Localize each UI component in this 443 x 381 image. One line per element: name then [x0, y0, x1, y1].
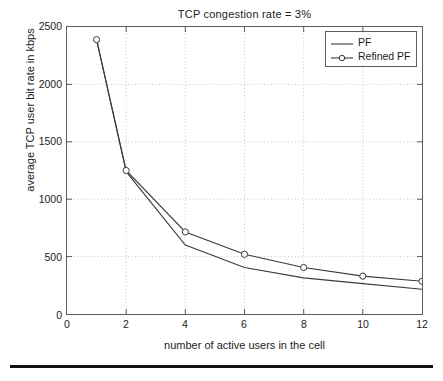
data-point-marker [301, 264, 307, 270]
x-tick-label-4: 4 [182, 319, 188, 330]
legend-entry-refined-pf: Refined PF [329, 49, 412, 63]
x-tick-label-0: 0 [64, 319, 70, 330]
data-point-marker [182, 229, 188, 235]
chart-title: TCP congestion rate = 3% [66, 8, 423, 20]
x-tick-label-12: 12 [416, 319, 428, 330]
data-point-marker [419, 278, 422, 284]
legend-entry-pf: PF [329, 35, 412, 49]
x-axis-label: number of active users in the cell [66, 339, 423, 351]
y-tick-label-0: 0 [56, 310, 62, 321]
legend-line-icon [329, 38, 355, 50]
x-tick-label-6: 6 [241, 319, 247, 330]
y-tick-label-1500: 1500 [39, 136, 62, 147]
data-point-marker [123, 167, 129, 173]
gridlines [67, 27, 422, 314]
series-line-refined-pf [97, 40, 422, 282]
figure-container: TCP congestion rate = 3% average TCP use… [0, 0, 443, 381]
plot-canvas [67, 27, 422, 314]
x-tick-label-2: 2 [123, 319, 129, 330]
y-axis-tick-labels: 2500 2000 1500 1000 500 0 [18, 26, 62, 315]
y-tick-label-500: 500 [44, 252, 62, 263]
legend-circle-marker-icon [329, 52, 355, 64]
x-axis-tick-labels: 0 2 4 6 8 10 12 [66, 319, 423, 335]
footer-divider [10, 365, 433, 368]
legend: PF Refined PF [325, 31, 417, 67]
series-markers-refined-pf [93, 37, 422, 285]
x-tick-label-10: 10 [357, 319, 369, 330]
data-point-marker [360, 273, 366, 279]
data-point-marker [241, 251, 247, 257]
x-tick-label-8: 8 [301, 319, 307, 330]
data-point-marker [93, 37, 99, 43]
legend-label-refined-pf: Refined PF [358, 50, 411, 62]
y-tick-label-2500: 2500 [39, 21, 62, 32]
legend-line-sample-icon [329, 36, 355, 48]
legend-label-pf: PF [358, 36, 371, 48]
legend-line-circle-sample-icon [329, 50, 355, 62]
y-tick-label-2000: 2000 [39, 79, 62, 90]
plot-area [66, 26, 423, 315]
series-line-pf [97, 40, 422, 290]
y-tick-label-1000: 1000 [39, 194, 62, 205]
